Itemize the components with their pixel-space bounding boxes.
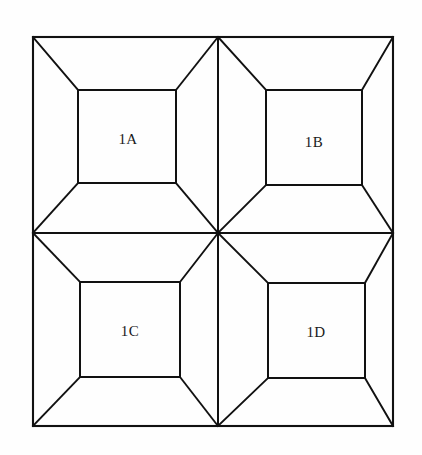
cell-1a-bevel-bottom-right [176,183,218,233]
cell-1b-bevel-top-left [218,37,266,90]
cell-1a-bevel-top-left [33,37,78,90]
cell-1a-bevel-bottom-left [33,183,78,233]
cell-label-1a: 1A [118,131,137,148]
cell-1b-bevel-top-right [362,37,393,90]
outer-frame-rect [33,37,393,426]
cell-1d-bevel-bottom-left [218,378,268,426]
diagram-vector-layer [0,0,422,455]
cell-label-1b: 1B [305,134,323,151]
cell-1c-bevel-bottom-left [33,377,80,426]
cell-1d-bevel-top-right [365,233,393,283]
cell-1d-bevel-bottom-right [365,378,393,426]
cell-1d-bevel-top-left [218,233,268,283]
cell-1c-bevel-top-right [180,233,218,282]
cell-1b-bevel-bottom-left [218,185,266,233]
cell-1c-bevel-bottom-right [180,377,218,426]
cell-label-1c: 1C [121,323,139,340]
cell-1c-bevel-top-left [33,233,80,282]
diagram-canvas: 1A 1B 1C 1D [0,0,422,455]
cell-1b-bevel-bottom-right [362,185,393,233]
cell-label-1d: 1D [306,324,325,341]
cell-1a-bevel-top-right [176,37,218,90]
